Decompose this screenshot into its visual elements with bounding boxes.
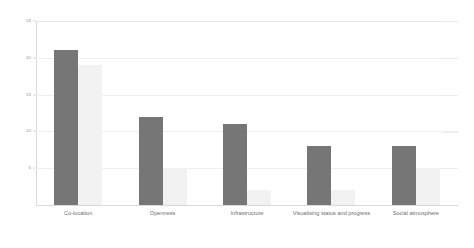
bar	[78, 65, 102, 205]
bar	[163, 168, 187, 205]
edge-tick-mark	[442, 168, 458, 169]
bar	[247, 190, 271, 205]
bar	[54, 50, 78, 205]
y-tick-label: 20	[26, 56, 31, 60]
edge-tick-mark	[442, 21, 458, 22]
edge-tick-mark	[442, 95, 458, 96]
bar-group	[289, 21, 373, 205]
bar-groups	[36, 21, 458, 205]
bar-group	[120, 21, 204, 205]
bar	[139, 117, 163, 205]
x-axis-label: Co-location	[36, 209, 120, 217]
bar	[392, 146, 416, 205]
y-tick-label: 15	[26, 92, 31, 96]
bar-group	[36, 21, 120, 205]
edge-tick-mark	[442, 58, 458, 59]
bar	[331, 190, 355, 205]
x-axis-label: Visualising status and progress	[289, 209, 373, 217]
bar	[307, 146, 331, 205]
edge-tick-mark	[442, 132, 458, 133]
x-axis-label: Social atmosphere	[374, 209, 458, 217]
y-tick-label: 25	[26, 19, 31, 23]
x-axis-labels: Co-locationOpennessInfrastructureVisuali…	[36, 209, 458, 217]
bar-group	[374, 21, 458, 205]
x-axis-label: Openness	[120, 209, 204, 217]
bar-group	[205, 21, 289, 205]
x-axis-line	[36, 205, 458, 206]
bar	[416, 168, 440, 205]
bar	[223, 124, 247, 205]
y-tick-label: 5	[29, 166, 31, 170]
bar-chart: 252015105 Co-locationOpennessInfrastruct…	[0, 0, 474, 248]
x-axis-label: Infrastructure	[205, 209, 289, 217]
y-tick-label: 10	[26, 129, 31, 133]
